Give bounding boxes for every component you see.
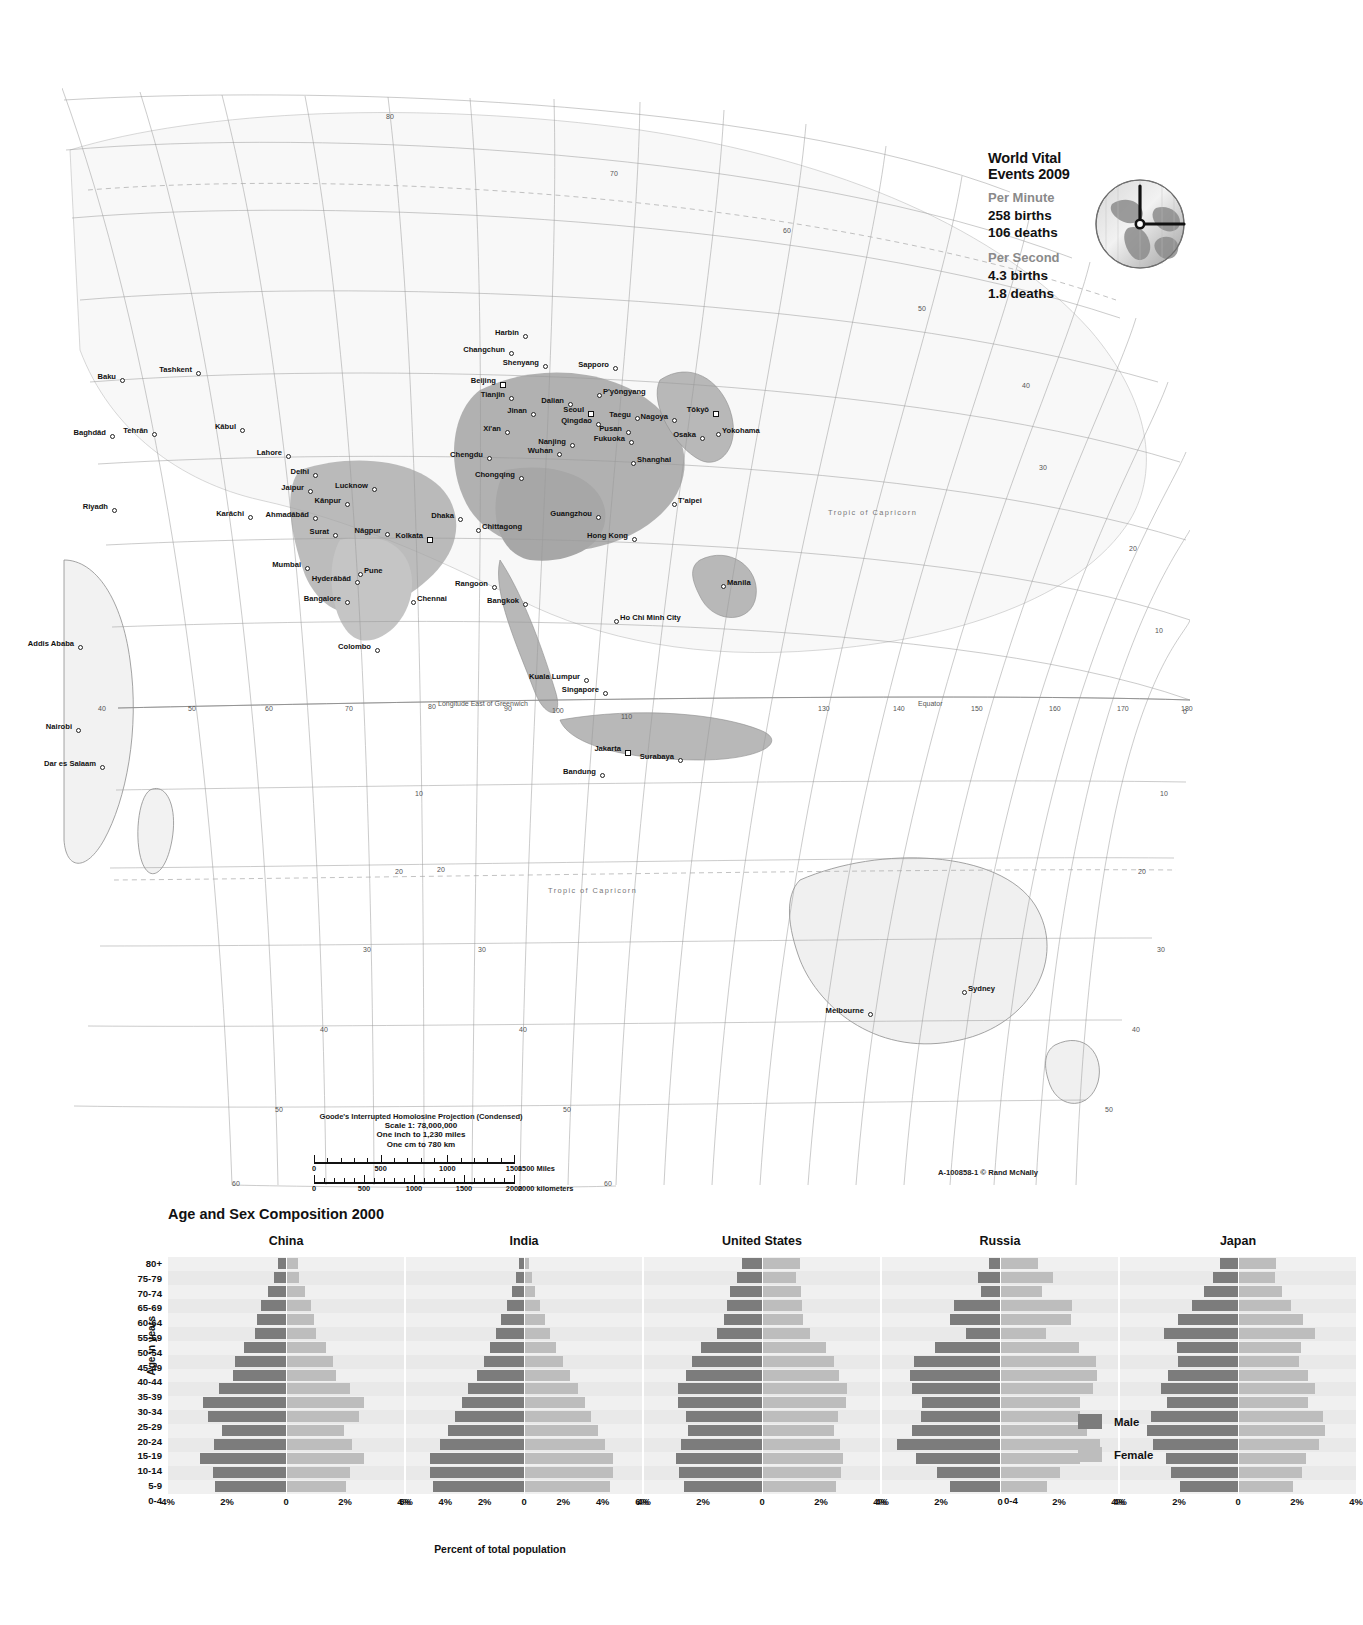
bar-female <box>762 1425 834 1436</box>
x-tick-label: 4% <box>875 1496 889 1507</box>
city-label: Kānpur <box>314 496 341 505</box>
city-label: Guangzhou <box>550 509 592 518</box>
city-label: Ahmadābād <box>266 510 309 519</box>
chart-legend: Male Female <box>1078 1414 1228 1480</box>
bar-male <box>257 1314 287 1325</box>
bar-male <box>916 1453 1000 1464</box>
city-label: Tehrān <box>123 426 148 435</box>
bar-female <box>524 1272 532 1283</box>
bar-female <box>1238 1314 1303 1325</box>
graticule-label: 70 <box>345 705 353 712</box>
city-label: Jakarta <box>594 744 621 753</box>
bar-female <box>1000 1328 1046 1339</box>
bar-female <box>762 1300 802 1311</box>
graticule-label: 60 <box>232 1180 240 1187</box>
tropic-capricorn-label: Tropic of Capricorn <box>548 886 637 895</box>
city-label: Riyadh <box>83 502 108 511</box>
bar-female <box>524 1411 591 1422</box>
pyramid-panels: China4%2%02%4%India6%4%2%02%4%6%United S… <box>0 1234 1326 1534</box>
bar-female <box>286 1286 305 1297</box>
ruler-tick <box>447 1155 448 1164</box>
bar-female <box>286 1467 350 1478</box>
ruler-tick <box>324 1178 325 1183</box>
scale-ratio: Scale 1: 78,000,000 <box>306 1121 536 1130</box>
bar-male <box>684 1481 762 1492</box>
bar-male <box>701 1342 762 1353</box>
city-label: Nairobi <box>46 722 72 731</box>
panel-plot <box>644 1257 880 1494</box>
credit-code: A-100858-1 <box>938 1168 978 1177</box>
city-label: Ho Chi Minh City <box>620 613 681 622</box>
city-label: Lucknow <box>335 481 368 490</box>
bar-male <box>1180 1481 1238 1492</box>
x-tick-label: 2% <box>1172 1496 1186 1507</box>
bar-female <box>1238 1342 1301 1353</box>
graticule-label: 30 <box>478 946 486 953</box>
bar-male <box>448 1425 524 1436</box>
city-label: Hyderābād <box>312 574 351 583</box>
bar-male <box>1161 1383 1238 1394</box>
bar-female <box>286 1411 359 1422</box>
scale-cm: One cm to 780 km <box>306 1140 536 1149</box>
bar-male <box>516 1272 524 1283</box>
bar-male <box>981 1286 1000 1297</box>
bar-male <box>1168 1370 1238 1381</box>
city-label: Jinan <box>507 406 527 415</box>
per-second-heading: Per Second <box>988 249 1088 267</box>
city-label: Dar es Salaam <box>44 759 96 768</box>
graticule-label: 50 <box>918 305 926 312</box>
graticule-label: 80 <box>428 703 436 710</box>
graticule-label: 70 <box>610 170 618 177</box>
graticule-label: 60 <box>265 705 273 712</box>
per-minute-deaths: 106 deaths <box>988 224 1088 242</box>
ruler-tick <box>464 1175 465 1184</box>
graticule-label: 150 <box>971 705 983 712</box>
city-label: Taegu <box>609 410 631 419</box>
ruler-tick <box>484 1178 485 1183</box>
city-label: Wuhan <box>528 446 553 455</box>
bar-female <box>524 1300 540 1311</box>
graticule-label: 160 <box>1049 705 1061 712</box>
bar-male <box>681 1439 762 1450</box>
x-tick-label: 4% <box>637 1496 651 1507</box>
city-label: Nagoya <box>641 412 668 421</box>
bar-male <box>235 1356 286 1367</box>
ruler-tick <box>314 1175 315 1184</box>
city-label: Mumbai <box>272 560 301 569</box>
city-label: Surabaya <box>640 752 674 761</box>
bar-female <box>524 1397 585 1408</box>
x-tick-label: 0 <box>521 1496 526 1507</box>
city-label: Addis Ababa <box>28 639 74 648</box>
bar-female <box>286 1356 333 1367</box>
city-label: Bangkok <box>487 596 519 605</box>
city-label: Singapore <box>562 685 599 694</box>
bar-male <box>737 1272 762 1283</box>
bar-male <box>274 1272 286 1283</box>
ruler-tick <box>384 1178 385 1183</box>
ruler-unit: 2000 kilometers <box>518 1184 573 1193</box>
bar-male <box>468 1383 524 1394</box>
bar-male <box>966 1328 1000 1339</box>
bar-male <box>954 1300 1000 1311</box>
graticule-label: 20 <box>1138 868 1146 875</box>
bar-male <box>676 1453 762 1464</box>
center-axis <box>1238 1257 1239 1494</box>
scale-ruler-kilometers: 05001000150020002000 kilometers <box>306 1174 534 1194</box>
bar-female <box>1000 1397 1080 1408</box>
bar-female <box>762 1258 800 1269</box>
ruler-tick <box>374 1178 375 1183</box>
city-label: Fukuoka <box>594 434 625 443</box>
city-label: Baghdād <box>74 428 107 437</box>
bar-female <box>1000 1453 1080 1464</box>
legend-item-female: Female <box>1078 1447 1228 1462</box>
city-label: Surat <box>310 527 329 536</box>
bar-male <box>501 1314 524 1325</box>
panel-title: United States <box>644 1234 880 1248</box>
ruler-label: 1000 <box>406 1184 422 1193</box>
city-label: Changchun <box>463 345 505 354</box>
ruler-tick <box>487 1158 488 1163</box>
graticule-label: 50 <box>1105 1106 1113 1113</box>
ruler-tick <box>474 1178 475 1183</box>
bar-female <box>524 1467 613 1478</box>
bar-female <box>286 1370 336 1381</box>
